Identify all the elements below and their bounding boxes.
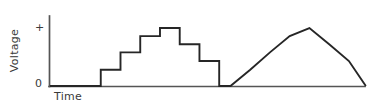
axis-lines <box>49 16 365 87</box>
waveform-trace <box>50 28 366 86</box>
y-tick-label-zero: 0 <box>35 77 42 90</box>
voltage-staircase-polyline <box>50 28 366 86</box>
y-axis-title: Voltage <box>8 21 21 81</box>
y-tick-label-plus: + <box>35 21 44 34</box>
x-axis-title: Time <box>54 90 82 103</box>
voltage-waveform-figure: + 0 Voltage Time <box>0 0 371 109</box>
